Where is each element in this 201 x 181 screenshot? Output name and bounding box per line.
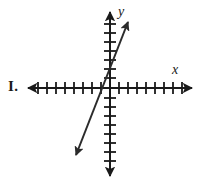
problem-number-label: I. — [8, 78, 19, 95]
coordinate-plane-graph — [0, 0, 201, 181]
figure-container: I. y x — [0, 0, 201, 181]
y-axis-label: y — [118, 4, 124, 20]
y-axis — [104, 12, 116, 176]
x-axis-label: x — [172, 62, 178, 78]
